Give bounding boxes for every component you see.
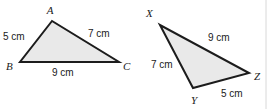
triangles-diagram: A B C 5 cm 7 cm 9 cm X Y Z 9 cm 7 cm 5 c… [0, 0, 275, 109]
vertex-label-a: A [46, 4, 54, 16]
side-label-xz: 9 cm [208, 32, 230, 43]
vertex-label-y: Y [191, 94, 199, 106]
triangle-abc-group: A B C 5 cm 7 cm 9 cm [3, 4, 131, 78]
side-label-ac: 7 cm [88, 28, 110, 39]
triangle-xyz-shape [160, 25, 249, 88]
vertex-label-z: Z [254, 70, 261, 82]
vertex-label-c: C [123, 60, 131, 72]
vertex-label-b: B [6, 60, 13, 72]
side-label-bc: 9 cm [52, 67, 74, 78]
side-label-ab: 5 cm [3, 31, 25, 42]
vertex-label-x: X [145, 7, 154, 19]
geometry-figure-panel: A B C 5 cm 7 cm 9 cm X Y Z 9 cm 7 cm 5 c… [0, 0, 275, 109]
side-label-xy: 7 cm [151, 59, 173, 70]
triangle-xyz-group: X Y Z 9 cm 7 cm 5 cm [145, 7, 261, 106]
side-label-yz: 5 cm [221, 88, 243, 99]
